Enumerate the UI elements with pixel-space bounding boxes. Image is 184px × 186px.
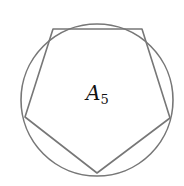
inscribed-pentagon-diagram: A5 bbox=[0, 0, 184, 186]
area-label-subscript: 5 bbox=[100, 92, 108, 107]
area-label: A5 bbox=[84, 81, 109, 107]
area-label-letter: A bbox=[84, 81, 100, 105]
